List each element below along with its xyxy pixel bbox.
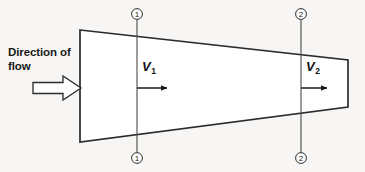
velocity-1-symbol: V [142, 59, 151, 74]
section-marker-1-top-label: 1 [135, 10, 140, 19]
section-marker-2-top-label: 2 [299, 10, 304, 19]
duct-outline [80, 30, 348, 142]
velocity-1-label: V1 [142, 59, 155, 74]
flow-direction-label-line2: flow [8, 60, 86, 74]
velocity-2-symbol: V [306, 59, 315, 74]
flow-direction-label: Direction of flow [8, 46, 86, 73]
section-marker-2-bottom-label: 2 [299, 154, 304, 163]
diagram-canvas: 1 1 2 2 [0, 0, 365, 172]
duct-flow-diagram: 1 1 2 2 Direction of flow V1 V2 [0, 0, 365, 172]
flow-direction-label-line1: Direction of [8, 46, 86, 60]
velocity-2-subscript: 2 [315, 66, 320, 76]
velocity-1-subscript: 1 [151, 66, 156, 76]
section-marker-1-top: 1 [132, 9, 143, 20]
section-marker-2-bottom: 2 [296, 153, 307, 164]
flow-direction-block-arrow [33, 76, 81, 100]
velocity-2-label: V2 [306, 59, 319, 74]
section-marker-1-bottom-label: 1 [135, 154, 140, 163]
section-marker-2-top: 2 [296, 9, 307, 20]
section-marker-1-bottom: 1 [132, 153, 143, 164]
